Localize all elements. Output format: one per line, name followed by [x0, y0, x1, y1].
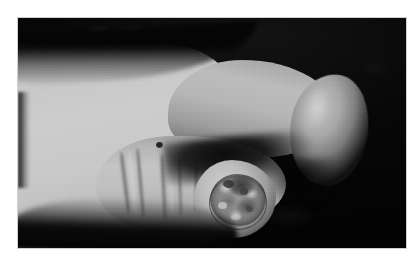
lesion-crust-detail [246, 206, 253, 212]
lesion-crust-detail [231, 214, 241, 220]
clinical-photograph [18, 18, 406, 248]
hand-left-edge-shadow [18, 92, 30, 188]
lesion-crust-detail [218, 202, 227, 209]
nevus [156, 142, 163, 148]
page-canvas [0, 0, 418, 272]
lesion-crust-detail [223, 180, 234, 188]
lesion-crust-detail [240, 188, 248, 195]
